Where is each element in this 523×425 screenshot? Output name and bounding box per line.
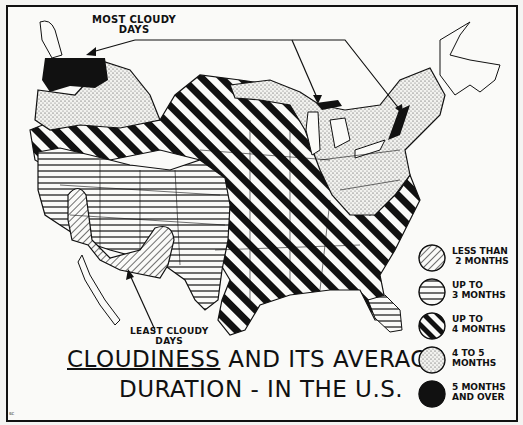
legend-item-5-and-over: 5 MONTHS AND OVER [418,380,518,414]
solid-black-swatch-icon [418,380,446,408]
title-line-1: Cloudiness and Its Average [67,344,444,374]
most-cloudy-callout: MOST CLOUDY DAYS [92,15,176,35]
legend-item-up-to-3: UP TO 3 MONTHS [418,278,518,312]
legend-item-4-to-5: 4 TO 5 MONTHS [418,346,518,380]
title-line-1-rest: and Its Average [228,346,443,372]
artist-signature: sc [9,410,14,416]
title-underlined-word: Cloudiness [67,346,220,372]
region-florida-up-to-3 [368,295,402,332]
diagonal-hatch-swatch-icon [418,244,446,272]
horizontal-lines-swatch-icon [418,278,446,306]
coastline-vancouver [40,21,62,58]
coastline-maritimes [440,22,500,95]
legend-item-less-than-2: LESS THAN 2 MONTHS [418,244,518,278]
legend-item-up-to-4: UP TO 4 MONTHS [418,312,518,346]
stipple-swatch-icon [418,346,446,374]
region-up-to-3-months [38,148,230,310]
least-cloudy-callout: LEAST CLOUDY DAYS [130,326,209,346]
title-line-2: Duration - in the U.S. [119,374,403,404]
bold-stripes-swatch-icon [418,312,446,340]
